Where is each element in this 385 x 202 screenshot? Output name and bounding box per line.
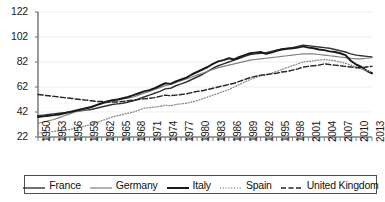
legend-line-swatch (166, 179, 190, 190)
legend-line-swatch (219, 179, 243, 190)
legend-item-france[interactable]: France (22, 179, 80, 191)
x-tick-label: 1977 (185, 121, 195, 142)
x-tick-label: 1983 (217, 121, 227, 142)
legend-line-swatch (280, 179, 304, 190)
legend-label: Germany (116, 179, 158, 191)
y-tick-label: 82 (2, 56, 28, 67)
legend-label: Spain (246, 179, 272, 191)
x-tick-label: 1974 (169, 121, 179, 142)
x-tick-label: 1962 (106, 121, 116, 142)
y-tick-label: 62 (2, 81, 28, 92)
x-tick-label: 2004 (328, 121, 338, 142)
x-tick-label: 1968 (137, 121, 147, 142)
chart-plot-area (0, 0, 385, 202)
x-tick-label: 1986 (233, 121, 243, 142)
series-line-italy (38, 46, 372, 117)
y-tick-label: 42 (2, 106, 28, 117)
y-tick-label: 22 (2, 131, 28, 142)
y-axis (35, 12, 38, 137)
chart-legend: FranceGermanyItalySpainUnited Kingdom (24, 175, 377, 194)
legend-item-spain[interactable]: Spain (219, 179, 272, 191)
legend-label: United Kingdom (307, 179, 379, 191)
x-tick-label: 1980 (201, 121, 211, 142)
series-line-united-kingdom (38, 64, 372, 102)
x-tick-label: 1965 (122, 121, 132, 142)
x-tick-label: 1950 (42, 121, 52, 142)
line-chart: 22426282102122 1950195319561959196219651… (0, 0, 385, 202)
x-tick-label: 2010 (360, 121, 370, 142)
legend-item-germany[interactable]: Germany (89, 179, 158, 191)
x-tick-label: 1971 (153, 121, 163, 142)
legend-item-italy[interactable]: Italy (166, 179, 211, 191)
x-tick-label: 2007 (344, 121, 354, 142)
gridlines (38, 12, 372, 137)
x-tick-label: 1959 (90, 121, 100, 142)
x-tick-label: 1998 (296, 121, 306, 142)
x-tick-label: 1995 (281, 121, 291, 142)
x-tick-label: 2013 (376, 121, 385, 142)
legend-label: Italy (193, 179, 211, 191)
x-tick-label: 1989 (249, 121, 259, 142)
x-tick-label: 2001 (312, 121, 322, 142)
legend-label: France (49, 179, 80, 191)
legend-item-united-kingdom[interactable]: United Kingdom (280, 179, 379, 191)
legend-line-swatch (22, 179, 46, 190)
x-tick-label: 1953 (58, 121, 68, 142)
legend-line-swatch (89, 179, 113, 190)
x-tick-label: 1956 (74, 121, 84, 142)
y-tick-label: 102 (2, 31, 28, 42)
x-tick-label: 1992 (265, 121, 275, 142)
y-tick-label: 122 (2, 6, 28, 17)
series-line-france (38, 45, 372, 116)
